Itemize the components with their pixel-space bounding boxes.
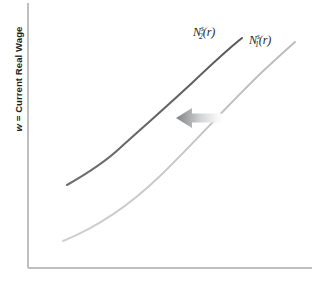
y-axis-label-text: = Current Real Wage (13, 27, 24, 124)
curve-n2-supply (67, 38, 242, 185)
figure-container: w = Current Real Wage Ns2(r) Ns1(r) (0, 0, 315, 281)
curve-label-n2: Ns2(r) (193, 25, 215, 40)
y-axis-label-symbol: w (13, 124, 24, 132)
curve-n1-supply (63, 42, 295, 241)
curve-label-n2-argument: (r) (203, 25, 216, 39)
shift-arrow-icon (176, 108, 222, 128)
curve-label-n1: Ns1(r) (249, 33, 271, 48)
y-axis-label: w = Current Real Wage (13, 0, 24, 132)
curve-label-n1-argument: (r) (259, 33, 272, 47)
